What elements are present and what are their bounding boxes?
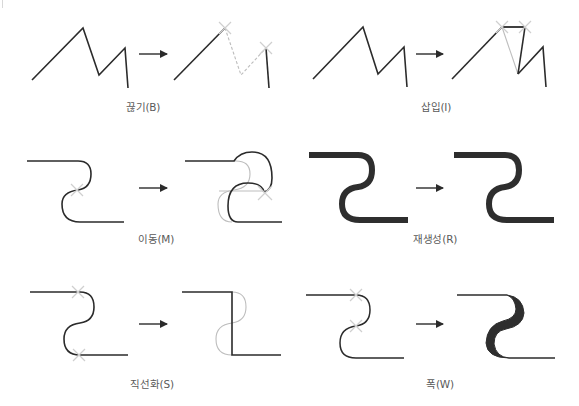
panel-straighten [30,286,281,361]
s-curve-original [30,292,128,355]
panel-width [306,289,555,358]
diagram-canvas [0,0,579,406]
zigzag-broken [174,28,269,88]
panel-break [32,22,272,88]
label-width: 폭(W) [426,376,454,391]
label-move: 이동(M) [138,231,174,246]
label-break: 끊기(B) [126,99,160,114]
s-curve-width-varied [457,295,555,358]
s-curve-moved [185,152,282,222]
s-curve-straightened [182,292,281,355]
panel-move [27,152,282,222]
zigzag-inserted [452,27,546,87]
s-curve-thick-original [309,155,408,220]
label-straighten: 직선화(S) [130,376,174,391]
panel-regenerate [309,155,554,220]
label-regenerate: 재생성(R) [413,231,457,246]
s-curve-thick-regenerated [454,155,554,220]
x-marker-icon [219,22,272,54]
zigzag-original [32,28,128,88]
panel-insert [313,21,546,87]
zigzag-original [313,27,407,87]
x-marker-icon [258,186,272,200]
label-insert: 삽입(I) [421,99,451,114]
